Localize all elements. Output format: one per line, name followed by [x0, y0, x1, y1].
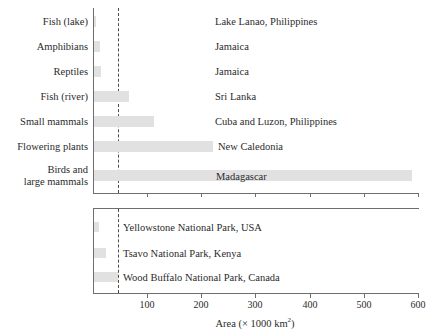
bar-wood-buffalo: [94, 272, 118, 282]
annotation-lake-lanao: Lake Lanao, Philippines: [215, 16, 317, 27]
bar-tsavo: [94, 248, 106, 258]
category-label-reptiles: Reptiles: [2, 66, 88, 77]
tick-200: [201, 294, 202, 298]
tick-600: [418, 294, 419, 298]
annotation-wood-buffalo: Wood Buffalo National Park, Canada: [123, 272, 280, 283]
bar-reptiles: [94, 66, 101, 77]
bar-yellowstone: [94, 222, 99, 232]
tick-label-300: 300: [235, 299, 275, 310]
bar-flowering-plants: [94, 141, 213, 152]
tick-top-100: [147, 194, 148, 197]
x-axis-title-suffix: ): [291, 318, 295, 329]
category-label-fish-lake: Fish (lake): [2, 16, 88, 27]
category-label-birds-large-mammals: Birds and large mammals: [2, 164, 88, 187]
annotation-yellowstone: Yellowstone National Park, USA: [123, 222, 262, 233]
bottom-panel-reference-line: [118, 209, 119, 293]
bar-fish-river: [94, 91, 129, 102]
tick-top-600: [418, 194, 419, 197]
tick-top-500: [364, 194, 365, 197]
bar-fish-lake: [94, 16, 96, 27]
category-label-amphibians: Amphibians: [2, 41, 88, 52]
tick-label-500: 500: [344, 299, 384, 310]
tick-300: [255, 294, 256, 298]
tick-label-100: 100: [127, 299, 167, 310]
tick-100: [147, 294, 148, 298]
bar-amphibians: [94, 41, 100, 52]
top-panel-x-axis: [93, 193, 419, 194]
tick-top-200: [201, 194, 202, 197]
annotation-madagascar: Madagascar: [216, 171, 267, 182]
bottom-panel-top-border: [93, 208, 419, 209]
tick-400: [310, 294, 311, 298]
bottom-panel-x-axis: [93, 293, 419, 294]
category-label-small-mammals: Small mammals: [2, 116, 88, 127]
annotation-cuba-luzon: Cuba and Luzon, Philippines: [215, 116, 337, 127]
chart-figure: Fish (lake) Amphibians Reptiles Fish (ri…: [0, 0, 427, 332]
annotation-sri-lanka: Sri Lanka: [215, 91, 256, 102]
annotation-tsavo: Tsavo National Park, Kenya: [123, 248, 241, 259]
tick-500: [364, 294, 365, 298]
category-label-fish-river: Fish (river): [2, 91, 88, 102]
tick-label-400: 400: [290, 299, 330, 310]
category-label-line-2: large mammals: [2, 176, 88, 188]
tick-top-300: [255, 194, 256, 197]
tick-top-400: [310, 194, 311, 197]
category-label-flowering-plants: Flowering plants: [2, 141, 88, 152]
category-label-line-1: Birds and: [2, 164, 88, 176]
annotation-jamaica-amphibians: Jamaica: [215, 41, 249, 52]
annotation-jamaica-reptiles: Jamaica: [215, 66, 249, 77]
annotation-new-caledonia: New Caledonia: [218, 141, 283, 152]
tick-label-200: 200: [181, 299, 221, 310]
tick-label-600: 600: [398, 299, 427, 310]
x-axis-title-prefix: Area (× 1000 km: [215, 318, 287, 329]
x-axis-title: Area (× 1000 km2): [190, 314, 320, 330]
bar-small-mammals: [94, 116, 154, 127]
